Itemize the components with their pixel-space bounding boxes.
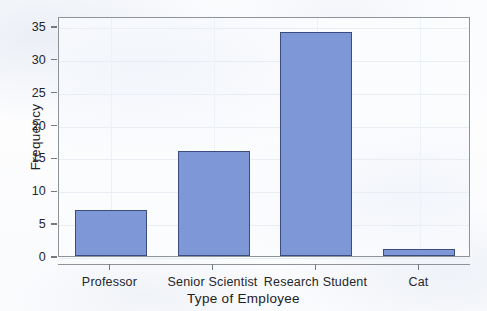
x-axis-tick-mark — [315, 264, 316, 270]
gridline — [59, 28, 469, 29]
y-axis-tick-mark — [51, 92, 57, 93]
y-axis-tick-label: 5 — [24, 218, 46, 231]
x-axis-tick-mark — [109, 264, 110, 270]
bar — [280, 32, 352, 256]
gridline — [59, 192, 469, 193]
y-axis-tick-label: 10 — [24, 185, 46, 198]
gridline — [59, 258, 469, 259]
y-axis-tick-mark — [51, 223, 57, 224]
y-axis-tick-label: 0 — [24, 251, 46, 264]
x-axis-tick-label: Cat — [359, 275, 479, 289]
bar-chart-figure: Frequency 35302520151050 ProfessorSenior… — [0, 0, 487, 311]
bar — [383, 249, 455, 256]
bar — [75, 210, 147, 256]
y-axis-tick-label: 25 — [24, 87, 46, 100]
bar — [178, 151, 250, 256]
gridline — [59, 159, 469, 160]
y-axis-tick-label: 20 — [24, 120, 46, 133]
gridline — [59, 127, 469, 128]
x-axis-line — [58, 264, 470, 265]
y-axis-tick-mark — [51, 191, 57, 192]
x-axis-tick-label: Research Student — [256, 275, 376, 289]
y-axis-tick-mark — [51, 59, 57, 60]
y-axis-tick-mark — [51, 256, 57, 257]
gridline-vertical — [420, 18, 421, 256]
y-axis-tick-label: 15 — [24, 152, 46, 165]
y-axis-tick-label: 30 — [24, 54, 46, 67]
gridline — [59, 94, 469, 95]
x-axis-tick-label: Senior Scientist — [153, 275, 273, 289]
x-axis-tick-mark — [418, 264, 419, 270]
x-axis-tick-mark — [212, 264, 213, 270]
plot-area — [58, 17, 470, 257]
x-axis-title: Type of Employee — [0, 291, 487, 306]
y-axis-tick-label: 35 — [24, 21, 46, 34]
y-axis-tick-mark — [51, 125, 57, 126]
x-axis-tick-label: Professor — [50, 275, 170, 289]
y-axis-tick-mark — [51, 26, 57, 27]
gridline — [59, 61, 469, 62]
y-axis-tick-mark — [51, 158, 57, 159]
